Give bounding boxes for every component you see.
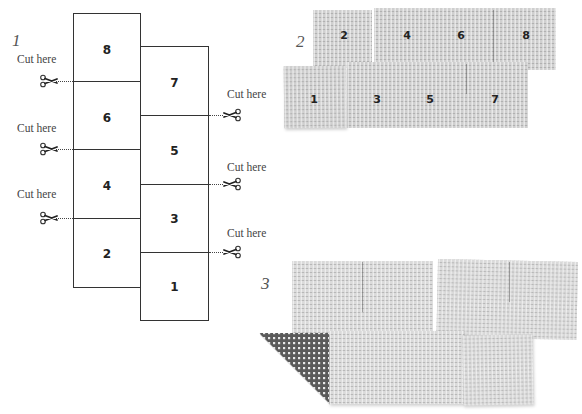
cut-dotted-guide [209,252,223,253]
cut-dotted-guide [56,81,73,82]
cut-dotted-guide [209,115,223,116]
box-label-3: 3 [141,212,208,226]
cut-label-right-3: Cut here [227,228,266,240]
left-strip: 8 6 4 2 [73,13,141,288]
step-number-3: 3 [261,275,270,292]
cut-label-left-1: Cut here [17,54,56,66]
seam-line [466,64,467,94]
piece-label-5: 5 [426,93,434,106]
box-label-2: 2 [74,247,140,261]
piece-label-8: 8 [522,29,530,42]
cut-line-4-2 [73,218,141,219]
seam-line [362,262,363,312]
cut-dotted-guide [56,149,73,150]
box-label-4: 4 [74,179,140,193]
cut-label-right-2: Cut here [227,162,266,174]
piece-label-4: 4 [403,29,411,42]
cut-label-right-1: Cut here [227,89,266,101]
step-number-1: 1 [12,32,21,49]
box-label-1: 1 [141,280,208,294]
piece-label-3: 3 [373,93,381,106]
box-label-5: 5 [141,144,208,158]
woven-block-bottom-middle [329,331,464,404]
cut-line-5-3 [140,184,209,185]
box-label-8: 8 [74,43,140,57]
woven-block-bottom-right [462,334,533,405]
cut-line-8-6 [73,81,141,82]
scissors-icon [222,177,242,191]
piece-label-2: 2 [340,29,348,42]
cut-dotted-guide [209,184,223,185]
woven-block-top-right [436,259,578,340]
scissors-icon [222,245,242,259]
cut-line-7-5 [140,115,209,116]
step-number-2: 2 [296,33,305,50]
cut-dotted-guide [56,218,73,219]
cut-label-left-2: Cut here [17,123,56,135]
folded-corner-triangle [257,331,333,407]
piece-label-7: 7 [491,93,499,106]
seam-line [493,10,494,68]
seam-line [509,262,510,302]
cut-line-6-4 [73,149,141,150]
box-label-6: 6 [74,111,140,125]
scissors-icon [222,108,242,122]
cut-label-left-3: Cut here [17,189,56,201]
piece-label-6: 6 [457,29,465,42]
box-label-7: 7 [141,76,208,90]
cut-line-3-1 [140,252,209,253]
piece-label-1: 1 [310,93,318,106]
